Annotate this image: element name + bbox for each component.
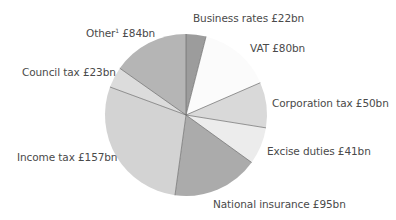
label-other: Other1 £84bn [86,27,155,39]
label-corporation-tax: Corporation tax £50bn [272,97,389,109]
pie-chart [0,0,396,220]
label-council-tax: Council tax £23bn [22,66,116,78]
label-income-tax: Income tax £157bn [17,151,117,163]
label-national-insurance: National insurance £95bn [213,198,346,210]
label-other-name: Other [86,27,115,39]
label-business-rates: Business rates £22bn [193,12,304,24]
label-other-value: £84bn [119,27,155,39]
label-excise-duties: Excise duties £41bn [267,145,371,157]
pie-slices [105,34,267,196]
label-vat: VAT £80bn [250,42,305,54]
